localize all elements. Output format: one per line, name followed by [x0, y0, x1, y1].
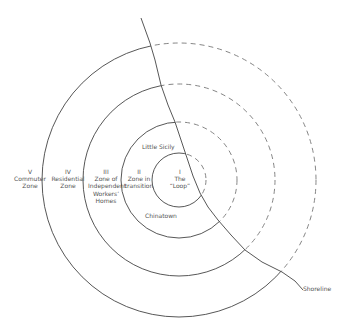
- shoreline-label: Shoreline: [303, 285, 331, 292]
- zone-name-line: Workers’: [88, 190, 124, 197]
- zone-name-line: Zone: [48, 182, 88, 189]
- zone-numeral: II: [124, 168, 154, 175]
- zone-name-line: Homes: [88, 197, 124, 204]
- zone-name-line: Commuter: [12, 175, 48, 182]
- zone-numeral: I: [169, 168, 191, 175]
- zone-label-3: III Zone of Independent Workers’ Homes: [88, 168, 124, 204]
- zone-label-5: V Commuter Zone: [12, 168, 48, 190]
- zone-numeral: IV: [48, 168, 88, 175]
- zone-name-line: The: [169, 175, 191, 182]
- shoreline-line: [141, 18, 303, 290]
- zone-name-line: Zone: [12, 182, 48, 189]
- place-label-chinatown: Chinatown: [145, 212, 177, 219]
- zone-name-line: “Loop”: [169, 182, 191, 189]
- zone-numeral: V: [12, 168, 48, 175]
- zone-name-line: transition: [124, 182, 154, 189]
- zone-label-1: I The “Loop”: [169, 168, 191, 190]
- zone-name-line: Independent: [88, 182, 124, 189]
- zone-name-line: Zone in: [124, 175, 154, 182]
- concentric-zone-diagram: [0, 0, 344, 331]
- place-label-little-sicily: Little Sicily: [142, 143, 175, 150]
- zone-label-4: IV Residential Zone: [48, 168, 88, 190]
- zone-name-line: Residential: [48, 175, 88, 182]
- zone-name-line: Zone of: [88, 175, 124, 182]
- zone-numeral: III: [88, 168, 124, 175]
- zone-label-2: II Zone in transition: [124, 168, 154, 190]
